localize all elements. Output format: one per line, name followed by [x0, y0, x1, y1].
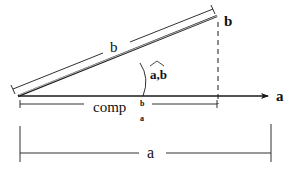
comp-label: comp: [93, 99, 126, 115]
comp-label-subscript: a: [140, 114, 144, 123]
a-length-dimension: [20, 124, 271, 162]
a-length-label: a: [147, 144, 154, 161]
angle-label: a,b: [150, 67, 167, 82]
vector-b-line-inner: [19, 16, 217, 95]
vector-a-tip-label: a: [276, 88, 284, 104]
vector-projection-diagram: b a,b b a comp b a a: [0, 0, 297, 170]
b-length-label: b: [110, 39, 118, 55]
angle-arc: [140, 63, 146, 96]
comp-label-superscript: b: [140, 99, 145, 108]
vector-b-tip-label: b: [224, 13, 232, 29]
comp-label-base: comp: [93, 99, 126, 115]
angle-hat-icon: [150, 61, 164, 66]
